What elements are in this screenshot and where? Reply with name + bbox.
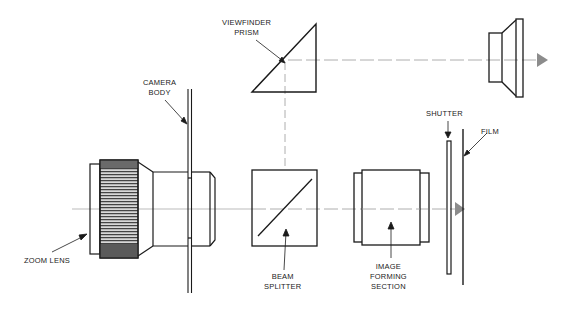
image-forming-section — [252, 170, 429, 245]
label-beam-splitter: BEAM SPLITTER — [264, 272, 301, 292]
label-image-forming-section: IMAGE FORMING SECTION — [370, 262, 407, 292]
camera-body — [188, 89, 192, 293]
viewfinder-axis — [285, 53, 548, 170]
leader-arrowhead-icon — [445, 132, 451, 138]
label-film: FILM — [481, 127, 499, 137]
label-shutter: SHUTTER — [426, 109, 463, 119]
shutter — [447, 141, 451, 274]
camera-optics-diagram: VIEWFINDER PRISM CAMERA BODY ZOOM LENS B… — [0, 0, 567, 311]
diagram-canvas — [0, 0, 567, 311]
label-zoom-lens: ZOOM LENS — [24, 256, 70, 266]
leader-arrowhead-icon — [283, 229, 289, 236]
label-camera-body: CAMERA BODY — [143, 78, 176, 98]
label-viewfinder-prism: VIEWFINDER PRISM — [222, 18, 271, 38]
viewfinder-arrowhead-icon — [537, 53, 548, 67]
eyepiece — [489, 19, 523, 97]
leader-arrowhead-icon — [79, 234, 87, 240]
